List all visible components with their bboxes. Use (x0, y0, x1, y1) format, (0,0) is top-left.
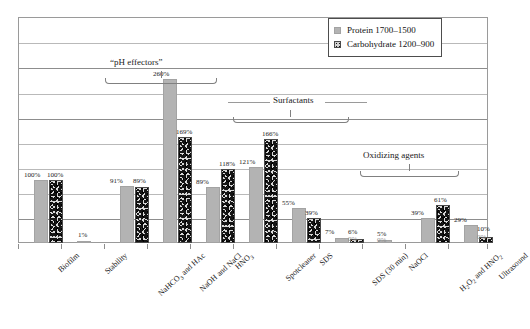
x-tick-2 (104, 244, 105, 249)
bar-label-spotcleaner-carbohydrate: 166% (262, 130, 278, 138)
bar-ultrasound-protein[interactable] (464, 225, 478, 243)
bar-label-sds-30min-protein: 7% (325, 228, 334, 236)
bar-nahco3-hac-carbohydrate[interactable] (135, 187, 149, 243)
bar-label-naoh-nacl-protein: 260% (153, 70, 169, 78)
bar-h2o2-hno2-carbohydrate[interactable] (436, 205, 450, 243)
legend-label-carbohydrate: Carbohydrate 1200–900 (347, 39, 434, 49)
x-label-sds-30min: SDS (30 min) (370, 251, 409, 287)
bar-group-ultrasound: 29% 10% 0% (456, 17, 498, 243)
bar-label-ultrasound-protein: 29% (454, 216, 467, 224)
x-tick-11 (487, 244, 488, 249)
legend-item-carbohydrate[interactable]: Carbohydrate 1200–900 (334, 37, 434, 51)
bar-label-nahco3-hac-protein: 91% (110, 177, 123, 185)
bar-label-naoh-nacl-carbohydrate: 169% (176, 128, 192, 136)
bar-label-sds-protein: 55% (282, 199, 295, 207)
bar-label-naocl-carbohydrate: 0% (377, 236, 386, 244)
x-tick-9 (405, 244, 406, 249)
bar-group-stability: 1% (69, 17, 111, 243)
x-tick-7 (319, 244, 320, 249)
bar-sds-30min-protein[interactable] (335, 238, 349, 243)
bar-group-hno3: 89% 118% (198, 17, 240, 243)
bar-stability-protein[interactable] (77, 241, 91, 243)
bar-group-spotcleaner: 121% 166% (241, 17, 283, 243)
x-label-h2o2-hno2: H2O2 and HNO2 (458, 251, 504, 293)
x-tick-5 (233, 244, 234, 249)
bar-group-biofilm: 100% 100% (26, 17, 68, 243)
x-tick-6 (276, 244, 277, 249)
bar-label-ultrasound-carbohydrate: 10% (477, 225, 490, 233)
x-label-sds: SDS (318, 251, 335, 268)
bar-label-sds-carbohydrate: 39% (305, 209, 318, 217)
x-label-naocl: NaOCl (407, 251, 430, 273)
bar-label-spotcleaner-protein: 121% (239, 158, 255, 166)
legend: Protein 1700–1500 Carbohydrate 1200–900 (328, 18, 442, 57)
legend-label-protein: Protein 1700–1500 (347, 25, 416, 35)
bar-label-h2o2-hno2-protein: 39% (411, 209, 424, 217)
bar-nahco3-hac-protein[interactable] (120, 186, 134, 243)
protein-swatch-icon (334, 27, 341, 34)
bar-label-biofilm-carbohydrate: 100% (47, 171, 63, 179)
x-tick-0 (18, 244, 19, 249)
bar-biofilm-carbohydrate[interactable] (49, 180, 63, 243)
bar-sds-protein[interactable] (292, 208, 306, 243)
bar-label-nahco3-hac-carbohydrate: 89% (133, 177, 146, 185)
x-tick-10 (448, 244, 449, 249)
bar-label-h2o2-hno2-carbohydrate: 61% (434, 196, 447, 204)
bar-group-nahco3-hac: 91% 89% (112, 17, 154, 243)
bar-label-hno3-protein: 89% (196, 178, 209, 186)
bar-spotcleaner-carbohydrate[interactable] (264, 139, 278, 243)
bar-h2o2-hno2-protein[interactable] (421, 218, 435, 243)
bar-label-ultrasound-carbohydrate-zero: 0% (477, 233, 486, 241)
carbohydrate-swatch-icon (334, 41, 341, 48)
bar-spotcleaner-protein[interactable] (249, 167, 263, 243)
x-label-stability: Stability (103, 251, 129, 276)
x-tick-8 (362, 244, 363, 249)
x-tick-4 (190, 244, 191, 249)
bar-group-sds: 55% 39% (284, 17, 326, 243)
x-label-nahco3-hac: NaHCO3 and HAc (156, 251, 207, 298)
bar-sds-carbohydrate[interactable] (307, 218, 321, 243)
bar-naoh-nacl-carbohydrate[interactable] (178, 137, 192, 243)
bar-label-hno3-carbohydrate: 118% (219, 160, 235, 168)
x-tick-1 (61, 244, 62, 249)
bar-hno3-carbohydrate[interactable] (221, 169, 235, 243)
bar-label-sds-30min-carbohydrate-zero: 0% (348, 235, 357, 243)
bar-label-biofilm-protein: 100% (24, 171, 40, 179)
x-axis: Biofilm Stability NaHCO3 and HAc NaOH an… (18, 244, 488, 329)
x-label-biofilm: Biofilm (56, 251, 81, 274)
bar-label-stability-protein: 1% (78, 231, 87, 239)
bar-group-naoh-nacl: 260% 169% (155, 17, 197, 243)
x-label-spotcleaner: Spotcleaner (284, 251, 318, 283)
bar-naoh-nacl-protein[interactable] (163, 79, 177, 243)
bar-biofilm-protein[interactable] (34, 180, 48, 243)
x-tick-3 (147, 244, 148, 249)
legend-item-protein[interactable]: Protein 1700–1500 (334, 23, 434, 37)
bar-hno3-protein[interactable] (206, 187, 220, 243)
